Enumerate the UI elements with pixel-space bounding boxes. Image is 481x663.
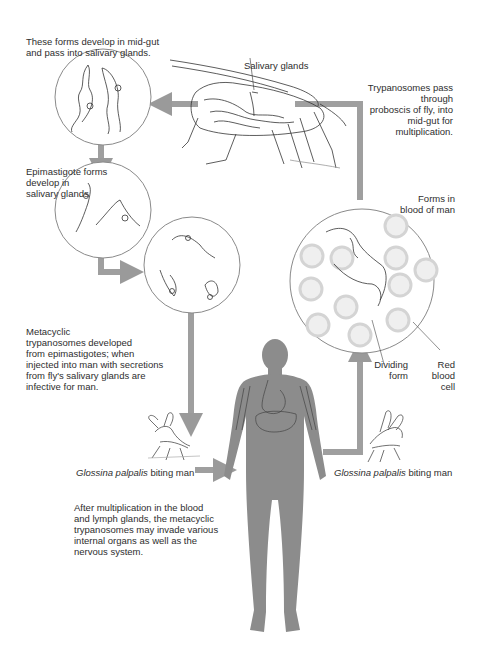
label-salivary-glands: Salivary glands (244, 60, 308, 71)
label-line: trypanosomes developed (26, 337, 163, 348)
label-line: Epimastigote forms (26, 166, 107, 177)
label-line: mid-gut for (340, 115, 453, 126)
human-silhouette (224, 339, 326, 632)
label-proboscis: Trypanosomes pass through proboscis of f… (340, 82, 453, 137)
label-line: Forms in (380, 193, 455, 204)
label-line: blood (420, 370, 455, 381)
label-metacyclic: Metacyclic trypanosomes developed from e… (26, 326, 163, 392)
label-midgut-forms: These forms develop in mid-gut and pass … (26, 36, 159, 58)
arrow-man-to-blood (323, 350, 360, 452)
label-text: biting man (406, 467, 452, 478)
label-line: develop in (26, 177, 107, 188)
label-line: Dividing (360, 359, 408, 370)
label-line: trypanosomes may invade various (74, 524, 218, 535)
label-line: blood of man (380, 204, 455, 215)
label-line: multiplication. (340, 126, 453, 137)
label-multiplication-note: After multiplication in the blood and ly… (74, 502, 218, 557)
label-text: biting man (148, 467, 194, 478)
label-line: from fly's salivary glands are (26, 370, 163, 381)
label-line: form (360, 370, 408, 381)
label-line: nervous system. (74, 546, 218, 557)
label-epimastigote: Epimastigote forms develop in salivary g… (26, 166, 107, 199)
label-line: salivary glands (26, 188, 107, 199)
label-line: cell (420, 381, 455, 392)
circle-midgut (55, 49, 151, 145)
label-line: Red (420, 359, 455, 370)
label-line: These forms develop in mid-gut (26, 36, 159, 47)
label-line: infective for man. (26, 381, 163, 392)
label-line: from epimastigotes; when (26, 348, 163, 359)
tsetse-fly-large (170, 58, 346, 168)
label-forms-blood: Forms in blood of man (380, 193, 455, 215)
label-red-blood-cell: Red blood cell (420, 359, 455, 392)
label-line: injected into man with secretions (26, 359, 163, 370)
label-biting-left: Glossina palpalis biting man (76, 467, 194, 478)
species-name: Glossina palpalis (334, 467, 406, 478)
circle-blood (290, 209, 440, 364)
tsetse-fly-small-right (368, 411, 403, 462)
label-line: After multiplication in the blood (74, 502, 218, 513)
label-line: and lymph glands, the metacyclic (74, 513, 218, 524)
label-dividing-form: Dividing form (360, 359, 408, 381)
label-line: internal organs as well as the (74, 535, 218, 546)
circle-metacyclic (144, 217, 240, 313)
label-line: Metacyclic (26, 326, 163, 337)
label-biting-right: Glossina palpalis biting man (334, 467, 452, 478)
label-line: Trypanosomes pass through (340, 82, 453, 104)
label-line: and pass into salivary glands. (26, 47, 159, 58)
label-line: proboscis of fly, into (340, 104, 453, 115)
species-name: Glossina palpalis (76, 467, 148, 478)
